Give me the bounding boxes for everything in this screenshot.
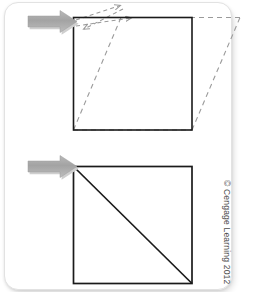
copyright-credit: © Cengage Learning 2012 [218,180,232,280]
figure-root: © Cengage Learning 2012 [0,0,261,292]
page-card [4,2,232,290]
